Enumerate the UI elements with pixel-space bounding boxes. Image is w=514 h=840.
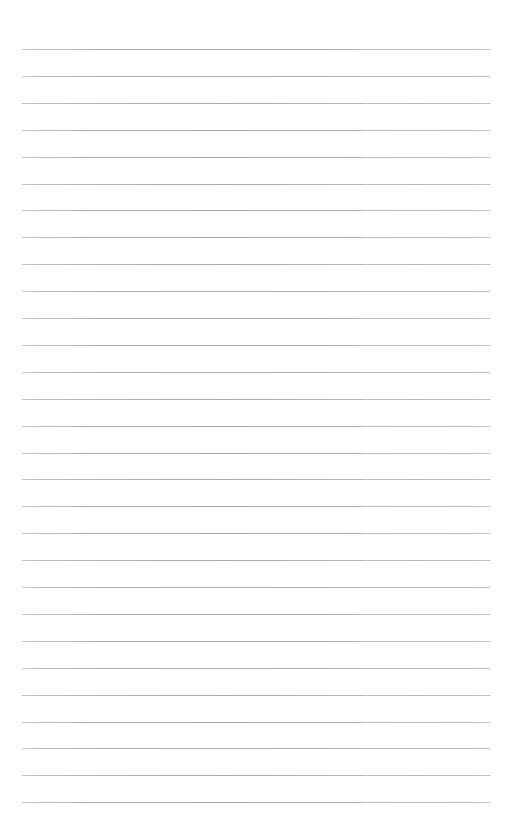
rule-line: [22, 318, 490, 319]
rule-line-segment-left: [22, 479, 365, 480]
rule-line-segment-right: [365, 479, 490, 480]
rule-line-segment-left: [22, 695, 365, 696]
rule-line: [22, 130, 490, 131]
rule-line: [22, 775, 490, 776]
rule-line-segment-right: [365, 695, 490, 696]
rule-line: [22, 210, 490, 211]
rule-line-segment-left: [22, 641, 365, 642]
rule-line-segment-right: [365, 49, 490, 50]
rule-line: [22, 802, 490, 803]
rule-line: [22, 372, 490, 373]
rule-line-segment-right: [365, 103, 490, 104]
rule-line: [22, 426, 490, 427]
rule-line-segment-left: [22, 49, 365, 50]
rule-line: [22, 479, 490, 480]
rule-line: [22, 184, 490, 185]
rule-line-segment-left: [22, 345, 365, 346]
rule-line-segment-right: [365, 184, 490, 185]
rule-line-segment-left: [22, 614, 365, 615]
rule-line-segment-left: [22, 130, 365, 131]
rule-line-segment-right: [365, 264, 490, 265]
rule-line-segment-right: [365, 802, 490, 803]
rule-line: [22, 560, 490, 561]
rule-line: [22, 264, 490, 265]
rule-line-segment-left: [22, 291, 365, 292]
rule-line: [22, 748, 490, 749]
rule-line-segment-left: [22, 668, 365, 669]
rule-line: [22, 291, 490, 292]
rule-line-segment-right: [365, 775, 490, 776]
rule-line: [22, 587, 490, 588]
rule-line-segment-right: [365, 453, 490, 454]
rule-line: [22, 641, 490, 642]
rule-line-segment-left: [22, 399, 365, 400]
rule-line-segment-left: [22, 453, 365, 454]
rule-line-segment-left: [22, 237, 365, 238]
rule-line-segment-right: [365, 130, 490, 131]
rule-line: [22, 506, 490, 507]
rule-line: [22, 345, 490, 346]
rule-line: [22, 453, 490, 454]
rule-line-segment-left: [22, 318, 365, 319]
rule-line-segment-right: [365, 748, 490, 749]
rule-line-segment-left: [22, 372, 365, 373]
rule-line-segment-left: [22, 802, 365, 803]
rule-line-segment-right: [365, 668, 490, 669]
rule-line-segment-left: [22, 722, 365, 723]
rule-line-segment-right: [365, 291, 490, 292]
rule-line-segment-left: [22, 506, 365, 507]
rule-line-segment-right: [365, 345, 490, 346]
rule-line-segment-right: [365, 372, 490, 373]
rule-line-segment-right: [365, 614, 490, 615]
rule-line-segment-right: [365, 237, 490, 238]
rule-line: [22, 103, 490, 104]
rule-line-segment-left: [22, 587, 365, 588]
rule-line-segment-right: [365, 641, 490, 642]
rule-line-segment-right: [365, 560, 490, 561]
rule-line-segment-left: [22, 533, 365, 534]
rule-line-segment-left: [22, 157, 365, 158]
rule-line-segment-right: [365, 722, 490, 723]
rule-line: [22, 399, 490, 400]
rule-line-segment-right: [365, 506, 490, 507]
rule-line-segment-left: [22, 775, 365, 776]
rule-line-segment-left: [22, 560, 365, 561]
lined-page: [0, 0, 514, 840]
rule-line-segment-left: [22, 210, 365, 211]
rule-line-segment-right: [365, 318, 490, 319]
rule-line-segment-left: [22, 103, 365, 104]
rule-line: [22, 614, 490, 615]
rule-line-segment-right: [365, 157, 490, 158]
rule-line-segment-right: [365, 533, 490, 534]
rule-line-segment-right: [365, 76, 490, 77]
ruled-lines-area: [0, 0, 514, 840]
rule-line: [22, 76, 490, 77]
rule-line-segment-right: [365, 587, 490, 588]
rule-line-segment-right: [365, 426, 490, 427]
rule-line-segment-left: [22, 264, 365, 265]
rule-line: [22, 49, 490, 50]
rule-line-segment-left: [22, 748, 365, 749]
rule-line: [22, 533, 490, 534]
rule-line-segment-left: [22, 76, 365, 77]
rule-line-segment-right: [365, 399, 490, 400]
rule-line-segment-left: [22, 184, 365, 185]
rule-line: [22, 722, 490, 723]
rule-line-segment-right: [365, 210, 490, 211]
rule-line: [22, 668, 490, 669]
rule-line: [22, 157, 490, 158]
rule-line: [22, 695, 490, 696]
rule-line-segment-left: [22, 426, 365, 427]
rule-line: [22, 237, 490, 238]
